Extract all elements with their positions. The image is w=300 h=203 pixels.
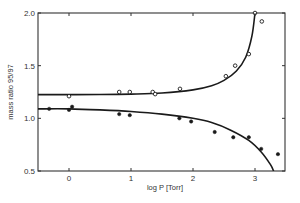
chart: 0123 0.51.01.52.0 log P [Torr] mass rati…	[0, 0, 300, 203]
filled-circle-point	[260, 147, 263, 150]
open-circle-point	[178, 87, 182, 91]
open-circle-point	[128, 90, 132, 94]
open-circle-point	[117, 90, 121, 94]
upper-fit-curve	[38, 13, 255, 95]
filled-circle-point	[232, 136, 235, 139]
filled-circle-point	[189, 120, 192, 123]
open-circle-point	[247, 52, 251, 56]
filled-circle-point	[47, 107, 50, 110]
x-tick-label: 3	[253, 174, 258, 183]
x-tick-label: 1	[129, 174, 134, 183]
lower-fit-curve	[38, 109, 274, 171]
y-tick-label: 2.0	[24, 9, 36, 18]
y-tick-label: 0.5	[24, 167, 36, 176]
x-axis-label: log P [Torr]	[147, 183, 183, 192]
filled-circle-point	[118, 112, 121, 115]
x-axis-ticks: 0123	[67, 13, 258, 183]
y-axis-label: mass ratio 95/97	[6, 64, 15, 119]
filled-circle-point	[128, 113, 131, 116]
filled-circle-point	[178, 117, 181, 120]
filled-circle-point	[213, 130, 216, 133]
open-circle-point	[224, 74, 228, 78]
x-tick-label: 0	[67, 174, 72, 183]
y-tick-label: 1.5	[24, 62, 36, 71]
open-circle-point	[260, 20, 264, 24]
filled-circle-point	[276, 152, 279, 155]
plot-frame	[38, 13, 285, 171]
axes-box	[38, 13, 285, 171]
data-points	[47, 11, 279, 156]
open-circle-point	[233, 64, 237, 68]
open-circle-point	[153, 92, 157, 96]
filled-circle-point	[67, 108, 70, 111]
filled-circle-point	[70, 105, 73, 108]
y-tick-label: 1.0	[24, 114, 36, 123]
open-circle-point	[67, 94, 71, 98]
filled-circle-point	[247, 136, 250, 139]
x-tick-label: 2	[191, 174, 196, 183]
